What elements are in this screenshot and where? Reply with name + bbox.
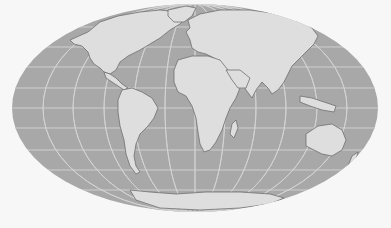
world-map bbox=[0, 0, 391, 228]
